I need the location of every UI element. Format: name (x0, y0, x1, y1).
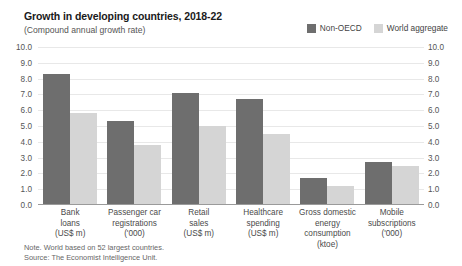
plot-area (38, 47, 424, 205)
bar-non-oecd[interactable] (300, 178, 327, 205)
y-axis-tick-right: 9.0 (428, 58, 458, 67)
y-axis-tick-left: 1.0 (2, 185, 32, 194)
y-axis-tick-left: 3.0 (2, 153, 32, 162)
y-axis-tick-right: 7.0 (428, 90, 458, 99)
x-axis-label: Mobilesubscriptions('000) (360, 208, 424, 242)
bar-non-oecd[interactable] (172, 93, 199, 205)
footnote-source: Source: The Economist Intelligence Unit. (24, 253, 164, 263)
bar-world-aggregate[interactable] (392, 166, 419, 206)
x-axis-label-line: subscriptions (360, 219, 424, 230)
x-axis-label-line: Healthcare (231, 208, 295, 219)
y-axis-tick-left: 9.0 (2, 58, 32, 67)
y-axis-tick-right: 6.0 (428, 106, 458, 115)
bar-non-oecd[interactable] (236, 99, 263, 205)
bar-non-oecd[interactable] (107, 121, 134, 205)
y-axis-tick-left: 8.0 (2, 74, 32, 83)
chart-footnote: Note. World based on 52 largest countrie… (24, 243, 164, 262)
x-axis-label-line: (US$ m) (38, 229, 102, 240)
axis-baseline (38, 204, 424, 205)
x-axis-labels: Bankloans(US$ m)Passenger carregistratio… (38, 208, 424, 242)
page-title: Growth in developing countries, 2018-22 (24, 10, 222, 22)
y-axis-tick-right: 2.0 (428, 169, 458, 178)
bar-group (360, 47, 424, 205)
chart-legend: Non-OECDWorld aggregate (307, 23, 448, 33)
bar-non-oecd[interactable] (43, 74, 70, 205)
y-axis-tick-left: 5.0 (2, 122, 32, 131)
y-axis-tick-right: 8.0 (428, 74, 458, 83)
x-axis-label: Gross domesticenergy consumption(ktoe) (295, 208, 359, 242)
legend-label: World aggregate (387, 23, 448, 33)
y-axis-tick-left: 7.0 (2, 90, 32, 99)
y-axis-tick-right: 5.0 (428, 122, 458, 131)
x-axis-label-line: spending (231, 219, 295, 230)
y-axis-tick-right: 3.0 (428, 153, 458, 162)
bar-world-aggregate[interactable] (263, 134, 290, 205)
x-axis-label-line: Mobile (360, 208, 424, 219)
legend-swatch-icon (374, 24, 383, 33)
bar-group (167, 47, 231, 205)
x-axis-label-line: (US$ m) (231, 229, 295, 240)
bar-group (102, 47, 166, 205)
x-axis-label-line: Retail (167, 208, 231, 219)
chart-container: Growth in developing countries, 2018-22 … (0, 0, 462, 266)
x-axis-label-line: (US$ m) (167, 229, 231, 240)
bar-group (38, 47, 102, 205)
bar-world-aggregate[interactable] (70, 113, 97, 205)
legend-label: Non-OECD (320, 23, 362, 33)
y-axis-tick-right: 0.0 (428, 201, 458, 210)
bar-non-oecd[interactable] (365, 162, 392, 205)
x-axis-label-line: (ktoe) (295, 240, 359, 251)
y-axis-tick-right: 4.0 (428, 137, 458, 146)
bar-world-aggregate[interactable] (327, 186, 354, 205)
y-axis-tick-right: 1.0 (428, 185, 458, 194)
x-axis-label: Passenger carregistrations('000) (102, 208, 166, 242)
x-axis-label-line: ('000) (102, 229, 166, 240)
footnote-note: Note. World based on 52 largest countrie… (24, 243, 164, 253)
y-axis-tick-left: 4.0 (2, 137, 32, 146)
x-axis-label: Bankloans(US$ m) (38, 208, 102, 242)
bar-world-aggregate[interactable] (134, 145, 161, 205)
x-axis-label-line: loans (38, 219, 102, 230)
bar-groups (38, 47, 424, 205)
y-axis-tick-right: 10.0 (428, 43, 458, 52)
x-axis-label-line: sales (167, 219, 231, 230)
x-axis-label-line: Passenger car (102, 208, 166, 219)
bar-group (231, 47, 295, 205)
x-axis-label: Retailsales(US$ m) (167, 208, 231, 242)
y-axis-tick-left: 6.0 (2, 106, 32, 115)
legend-item-1: Non-OECD (307, 23, 362, 33)
x-axis-label-line: energy consumption (295, 219, 359, 240)
x-axis-label-line: ('000) (360, 229, 424, 240)
chart-subtitle: (Compound annual growth rate) (24, 25, 145, 35)
legend-swatch-icon (307, 24, 316, 33)
y-axis-tick-left: 0.0 (2, 201, 32, 210)
legend-item-2: World aggregate (374, 23, 448, 33)
bar-group (295, 47, 359, 205)
y-axis-tick-left: 2.0 (2, 169, 32, 178)
x-axis-label-line: registrations (102, 219, 166, 230)
x-axis-label-line: Bank (38, 208, 102, 219)
x-axis-label-line: Gross domestic (295, 208, 359, 219)
bar-world-aggregate[interactable] (199, 126, 226, 205)
x-axis-label: Healthcarespending(US$ m) (231, 208, 295, 242)
y-axis-tick-left: 10.0 (2, 43, 32, 52)
